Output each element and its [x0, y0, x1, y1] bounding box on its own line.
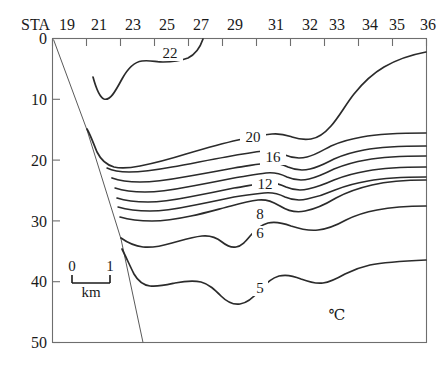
scale-bar-right-value: 1: [106, 258, 114, 274]
x-tick-label: 33: [329, 16, 345, 33]
x-tick-label: 35: [389, 16, 405, 33]
x-tick-label: 29: [227, 16, 243, 33]
svg-text:12: 12: [258, 176, 273, 192]
x-tick-label: 32: [302, 16, 318, 33]
contour-label-5: 5: [252, 280, 268, 296]
contour-line-20: [87, 52, 426, 168]
x-tick-label: 21: [91, 16, 107, 33]
contour-label-12: 12: [252, 176, 278, 192]
x-tick-labels: 19 21 23 25 27 29 31 32 33 34 35 36: [59, 16, 436, 33]
contour-line-5: [122, 249, 426, 304]
scale-bar: 0 1 km: [68, 258, 114, 300]
y-axis-ticks: [53, 39, 61, 343]
contour-label-6: 6: [252, 225, 268, 241]
y-tick-label: 40: [31, 273, 47, 290]
x-tick-label: 31: [268, 16, 284, 33]
x-tick-label: 23: [125, 16, 141, 33]
plot-frame: [53, 39, 427, 343]
x-tick-label: 19: [59, 16, 75, 33]
figure-container: STA 19 21 23 25 27 29 31 32 33 34 35 36 …: [0, 0, 446, 367]
contour-label-16: 16: [260, 149, 286, 165]
y-tick-label: 30: [31, 213, 47, 230]
y-tick-label: 20: [31, 152, 47, 169]
y-tick-label: 50: [31, 334, 47, 351]
scale-bar-left-value: 0: [68, 258, 76, 274]
contour-line-22: [93, 39, 203, 99]
svg-text:20: 20: [246, 129, 261, 145]
scale-bar-unit: km: [81, 284, 101, 300]
svg-text:16: 16: [266, 149, 282, 165]
contour-plot: STA 19 21 23 25 27 29 31 32 33 34 35 36 …: [0, 0, 446, 367]
x-tick-label: 25: [159, 16, 175, 33]
x-tick-label: 34: [362, 16, 378, 33]
x-tick-label: 27: [193, 16, 209, 33]
svg-text:8: 8: [256, 206, 264, 222]
svg-text:5: 5: [256, 280, 264, 296]
svg-text:22: 22: [163, 45, 178, 61]
temperature-unit-label: ℃: [329, 307, 346, 323]
x-tick-label: 36: [420, 16, 436, 33]
contour-line-6: [121, 206, 426, 247]
y-tick-labels: 0 10 20 30 40 50: [31, 30, 47, 351]
svg-text:6: 6: [256, 225, 264, 241]
y-tick-label: 10: [31, 91, 47, 108]
x-axis-ticks: [53, 39, 427, 47]
contour-label-20: 20: [240, 129, 266, 145]
contour-label-8: 8: [252, 206, 268, 222]
y-tick-label: 0: [39, 30, 47, 47]
contour-label-22: 22: [158, 45, 183, 61]
